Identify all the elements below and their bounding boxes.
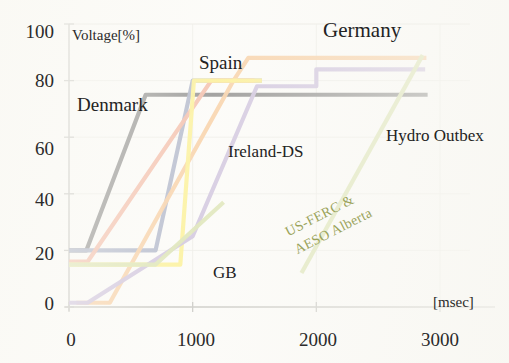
series-label-hydro-outbex: Hydro Outbex bbox=[386, 126, 484, 146]
x-tick-label-1000: 1000 bbox=[161, 329, 231, 351]
chart-figure: 100 80 60 40 20 0 0 1000 2000 3000 Volta… bbox=[0, 0, 509, 363]
x-tick-label-0: 0 bbox=[36, 329, 106, 351]
series-label-gb: GB bbox=[213, 263, 237, 283]
series-label-germany: Germany bbox=[323, 18, 401, 43]
y-tick-label-20: 20 bbox=[8, 243, 54, 265]
y-tick-label-40: 40 bbox=[8, 189, 54, 211]
y-axis-unit-label: Voltage[%] bbox=[72, 27, 140, 44]
x-axis-unit-label: [msec] bbox=[433, 294, 474, 311]
series-label-ireland: Ireland-DS bbox=[228, 142, 304, 162]
y-tick-label-100: 100 bbox=[8, 21, 54, 43]
series-line-denmark bbox=[69, 95, 428, 251]
x-tick-label-3000: 3000 bbox=[405, 329, 475, 351]
series-label-spain: Spain bbox=[199, 52, 242, 74]
chart-series-lines bbox=[69, 55, 428, 303]
y-tick-label-0: 0 bbox=[8, 293, 54, 315]
y-tick-label-80: 80 bbox=[8, 70, 54, 92]
y-tick-label-60: 60 bbox=[8, 138, 54, 160]
x-tick-label-2000: 2000 bbox=[283, 329, 353, 351]
series-label-denmark: Denmark bbox=[77, 94, 148, 116]
